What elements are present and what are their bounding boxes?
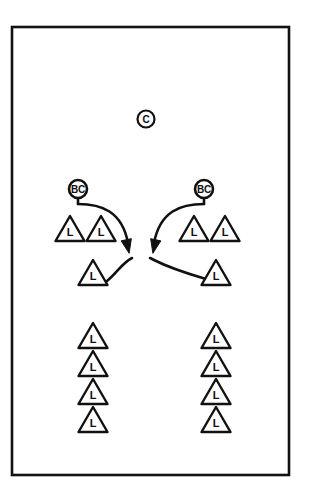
node-command-c[interactable]: C (138, 111, 155, 128)
unit-triangle-label: L (67, 226, 74, 238)
unit-group-left-pair: LL (56, 216, 116, 241)
bc-left-label: BC (71, 184, 85, 195)
unit-group-left-column: LLLL (79, 323, 108, 432)
unit-triangle-label: L (213, 270, 220, 282)
unit-group-right-pair: LL (180, 216, 240, 241)
node-bc-left[interactable]: BC (69, 180, 87, 198)
tactical-diagram: LL LL L L LLLL LLLL C BC BC (0, 0, 309, 493)
unit-triangle-label: L (90, 361, 97, 373)
unit-triangle[interactable]: L (79, 323, 108, 348)
unit-group-left-middle: L (79, 260, 108, 285)
arrow-left-head-icon (121, 239, 131, 254)
unit-triangle[interactable]: L (211, 216, 240, 241)
diagram-border (12, 27, 289, 475)
unit-triangle-label: L (98, 226, 105, 238)
unit-triangle[interactable]: L (202, 323, 231, 348)
unit-triangle-label: L (213, 417, 220, 429)
unit-triangle-label: L (191, 226, 198, 238)
unit-triangle-label: L (90, 270, 97, 282)
unit-triangle-label: L (222, 226, 229, 238)
unit-triangle-label: L (213, 361, 220, 373)
unit-triangle[interactable]: L (79, 260, 108, 285)
unit-triangle[interactable]: L (87, 216, 116, 241)
unit-triangle[interactable]: L (202, 260, 231, 285)
unit-triangle[interactable]: L (79, 379, 108, 404)
unit-triangle[interactable]: L (180, 216, 209, 241)
unit-group-right-column: LLLL (202, 323, 231, 432)
unit-triangle[interactable]: L (79, 407, 108, 432)
arrow-right-head-icon (151, 239, 161, 254)
unit-triangle-label: L (213, 389, 220, 401)
unit-triangle-label: L (90, 417, 97, 429)
unit-triangle[interactable]: L (202, 407, 231, 432)
unit-group-right-middle: L (202, 260, 231, 285)
node-bc-right[interactable]: BC (195, 180, 213, 198)
unit-triangle-label: L (90, 389, 97, 401)
connector-right-tail (150, 258, 206, 279)
unit-triangle-label: L (90, 333, 97, 345)
unit-triangle[interactable]: L (79, 351, 108, 376)
bc-right-label: BC (197, 184, 211, 195)
command-circle-label: C (142, 114, 149, 125)
diagram-canvas: LL LL L L LLLL LLLL C BC BC (0, 0, 309, 493)
unit-triangle[interactable]: L (202, 379, 231, 404)
connector-left-tail (107, 258, 132, 281)
unit-triangle[interactable]: L (202, 351, 231, 376)
unit-triangle-label: L (213, 333, 220, 345)
unit-triangle[interactable]: L (56, 216, 85, 241)
